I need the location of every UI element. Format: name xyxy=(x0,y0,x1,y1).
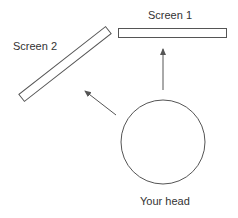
arrow-to-screen-2 xyxy=(85,91,116,115)
screen-1-label: Screen 1 xyxy=(148,9,192,21)
screen-2-label: Screen 2 xyxy=(13,40,57,52)
head-circle xyxy=(121,100,205,184)
head-label: Your head xyxy=(140,195,190,207)
diagram: Screen 1 Screen 2 Your head xyxy=(0,0,238,218)
screen-1 xyxy=(119,29,227,38)
screen-2 xyxy=(19,27,111,102)
